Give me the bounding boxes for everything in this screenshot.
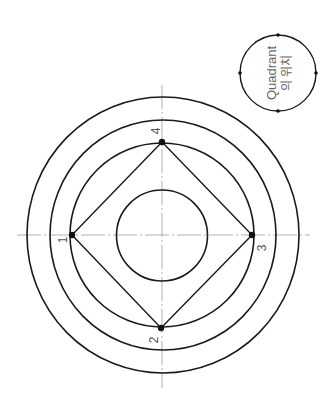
quadrant-legend: Quadrant 의 위치: [238, 33, 318, 113]
legend-tick-bottom: [276, 109, 280, 113]
legend-line-1: Quadrant: [264, 46, 279, 101]
vertex-4-label: 4: [149, 127, 163, 134]
vertex-1-label: 1: [56, 236, 70, 243]
edge-1-4: [72, 142, 162, 235]
legend-line-2: 의 위치: [280, 55, 294, 92]
vertex-2-label: 2: [147, 336, 161, 343]
legend-tick-right: [314, 71, 318, 75]
edge-4-3: [162, 142, 252, 235]
vertex-3-dot: [249, 232, 255, 238]
legend-tick-top: [276, 33, 280, 37]
legend-tick-left: [238, 71, 242, 75]
vertex-3-label: 3: [255, 244, 269, 251]
vertex-2-dot: [158, 325, 164, 331]
vertex-4-dot: [159, 139, 165, 145]
quadrant-diagram: 1 2 3 4 Quadrant 의 위치: [0, 0, 336, 393]
edge-3-2: [161, 235, 252, 328]
